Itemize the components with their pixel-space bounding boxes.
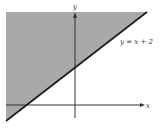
x-axis-label: x <box>146 102 150 110</box>
inequality-graph: y x y = x + 2 <box>0 0 161 128</box>
line-equation-label: y = x + 2 <box>119 38 154 46</box>
x-axis-arrow-icon <box>140 103 145 107</box>
y-axis-label: y <box>72 3 78 11</box>
